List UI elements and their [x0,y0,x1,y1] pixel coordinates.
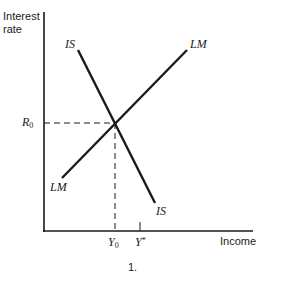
y-axis-label-line1: Interest [3,11,40,22]
x-axis-label: Income [220,236,256,247]
r0-label: R0 [22,116,33,130]
ystar-main: Y [135,235,142,249]
ystar-label: Y* [135,236,146,248]
y-axis-label-line2: rate [3,24,22,35]
diagram-canvas [0,0,281,295]
lm-label-top: LM [190,38,207,50]
is-curve [78,50,155,203]
y0-sub: 0 [115,241,119,250]
is-label-bottom: IS [156,205,166,217]
lm-label-bottom: LM [50,181,67,193]
ystar-sup: * [142,236,146,245]
islm-diagram: Interest rate IS IS LM LM R0 Y0 Y* Incom… [0,0,281,295]
y0-label: Y0 [108,236,119,250]
y0-main: Y [108,235,115,249]
is-label-top: IS [65,38,75,50]
figure-caption: 1. [128,262,137,273]
lm-curve [62,50,187,178]
r0-sub: 0 [29,121,33,130]
